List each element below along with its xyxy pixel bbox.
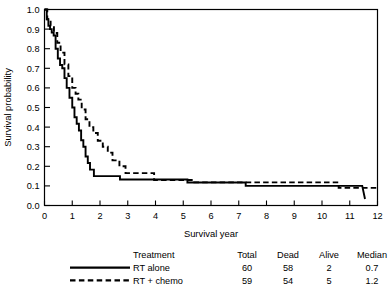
x-tick-label-11: 11 [345, 211, 355, 221]
legend-row-total: 60 [242, 263, 252, 273]
legend-row-total: 59 [242, 276, 252, 286]
series-curve-1 [45, 10, 378, 188]
legend-row-median: 0.7 [366, 263, 379, 273]
x-tick-label-7: 7 [236, 211, 241, 221]
y-tick-label-0.6: 0.6 [27, 83, 40, 93]
x-tick-label-0: 0 [42, 211, 47, 221]
y-tick-label-0.7: 0.7 [27, 64, 40, 74]
y-tick-label-0.9: 0.9 [27, 25, 40, 35]
legend-row-alive: 5 [326, 276, 331, 286]
x-tick-label-2: 2 [97, 211, 102, 221]
y-tick-label-0.5: 0.5 [27, 103, 40, 113]
x-tick-label-8: 8 [264, 211, 269, 221]
y-tick-label-1.0: 1.0 [27, 5, 40, 15]
legend-header-median: Median [357, 250, 387, 260]
legend-header-dead: Dead [277, 250, 299, 260]
survival-curve-figure: 01234567891011120.00.10.20.30.40.50.60.7… [0, 0, 391, 291]
y-tick-label-0.8: 0.8 [27, 44, 40, 54]
x-tick-label-10: 10 [317, 211, 327, 221]
x-tick-label-1: 1 [70, 211, 75, 221]
legend-row-treatment: RT alone [133, 263, 170, 273]
y-tick-label-0.2: 0.2 [27, 162, 40, 172]
x-axis-title: Survival year [184, 228, 238, 239]
kaplan-meier-chart: 01234567891011120.00.10.20.30.40.50.60.7… [0, 0, 391, 291]
x-tick-label-9: 9 [292, 211, 297, 221]
y-axis-title: Survival probability [2, 68, 13, 147]
legend-row-treatment: RT + chemo [133, 276, 183, 286]
y-tick-label-0.0: 0.0 [27, 201, 40, 211]
legend-row-dead: 58 [283, 263, 293, 273]
legend-header-alive: Alive [319, 250, 339, 260]
x-tick-label-4: 4 [153, 211, 158, 221]
x-tick-label-6: 6 [208, 211, 213, 221]
legend-row-median: 1.2 [366, 276, 379, 286]
x-tick-label-3: 3 [125, 211, 130, 221]
y-tick-label-0.1: 0.1 [27, 181, 40, 191]
x-tick-label-12: 12 [372, 211, 382, 221]
x-tick-label-5: 5 [181, 211, 186, 221]
legend-row-dead: 54 [283, 276, 293, 286]
series-curve-0 [45, 10, 366, 200]
legend-header-treatment: Treatment [133, 250, 175, 260]
legend-row-alive: 2 [326, 263, 331, 273]
legend-header-total: Total [237, 250, 256, 260]
y-tick-label-0.4: 0.4 [27, 123, 40, 133]
y-tick-label-0.3: 0.3 [27, 142, 40, 152]
